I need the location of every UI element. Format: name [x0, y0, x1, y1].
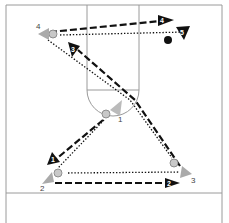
svg-text:3: 3: [71, 46, 75, 53]
pass-line-top: [60, 32, 185, 35]
players: 4 1 2 3: [36, 22, 196, 193]
movement-marker-4: 4: [158, 15, 174, 26]
ball-icon: [102, 110, 110, 118]
pass-line-center: [58, 120, 104, 168]
play-diagram: 4 5 3 1 2: [0, 0, 229, 223]
svg-text:2: 2: [40, 184, 45, 193]
court: [6, 5, 222, 223]
player-4: 4: [36, 22, 49, 40]
pass-line-bottom: [68, 172, 180, 173]
movement-marker-5: 5: [176, 26, 190, 40]
svg-text:1: 1: [51, 156, 55, 163]
movement-marker-1: 1: [47, 152, 60, 165]
svg-text:4: 4: [160, 17, 164, 24]
player-3: 3: [180, 166, 196, 185]
movement-marker-2: 2: [165, 178, 180, 188]
movement-1-path: [55, 120, 103, 160]
svg-text:2: 2: [167, 180, 171, 187]
svg-text:3: 3: [191, 176, 196, 185]
pass-lines: [48, 32, 185, 173]
movement-4-path: [50, 20, 170, 32]
screen-dot: [164, 36, 172, 44]
ball-icon: [49, 30, 57, 38]
free-throw-circle: [87, 90, 139, 116]
svg-text:4: 4: [36, 22, 41, 31]
pass-line-left-diagonal: [48, 40, 172, 158]
svg-text:5: 5: [180, 29, 184, 36]
ball-icon: [170, 159, 178, 167]
movement-marker-3: 3: [68, 42, 80, 57]
balls: [49, 30, 178, 177]
player-1: 1: [110, 100, 123, 124]
svg-text:1: 1: [118, 115, 123, 124]
ball-icon: [54, 169, 62, 177]
player-2: 2: [40, 172, 54, 193]
